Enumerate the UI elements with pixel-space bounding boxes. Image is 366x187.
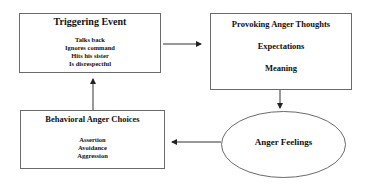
behavioral-choices-item: Avoidance: [21, 144, 164, 151]
triggering-event-item: Talks back: [20, 36, 160, 43]
behavioral-choices-item: Assertion: [21, 136, 164, 143]
triggering-event-item: Hits his sister: [20, 52, 160, 59]
triggering-event-title: Triggering Event: [20, 16, 160, 27]
behavioral-choices-box: Behavioral Anger Choices Assertion Avoid…: [20, 110, 165, 169]
triggering-event-item: Is disrespectful: [20, 60, 160, 67]
anger-feelings-label: Anger Feelings: [221, 137, 346, 147]
behavioral-choices-title: Behavioral Anger Choices: [21, 114, 164, 124]
triggering-event-box: Triggering Event Talks back Ignores comm…: [19, 13, 161, 73]
behavioral-choices-item: Aggression: [21, 152, 164, 159]
triggering-event-item: Ignores command: [20, 44, 160, 51]
provoking-thoughts-item: Meaning: [211, 63, 351, 73]
provoking-thoughts-title: Provoking Anger Thoughts: [211, 19, 351, 29]
provoking-thoughts-item: Expectations: [211, 41, 351, 51]
anger-cycle-diagram: Triggering Event Talks back Ignores comm…: [0, 0, 366, 187]
provoking-thoughts-box: Provoking Anger Thoughts Expectations Me…: [210, 13, 352, 90]
